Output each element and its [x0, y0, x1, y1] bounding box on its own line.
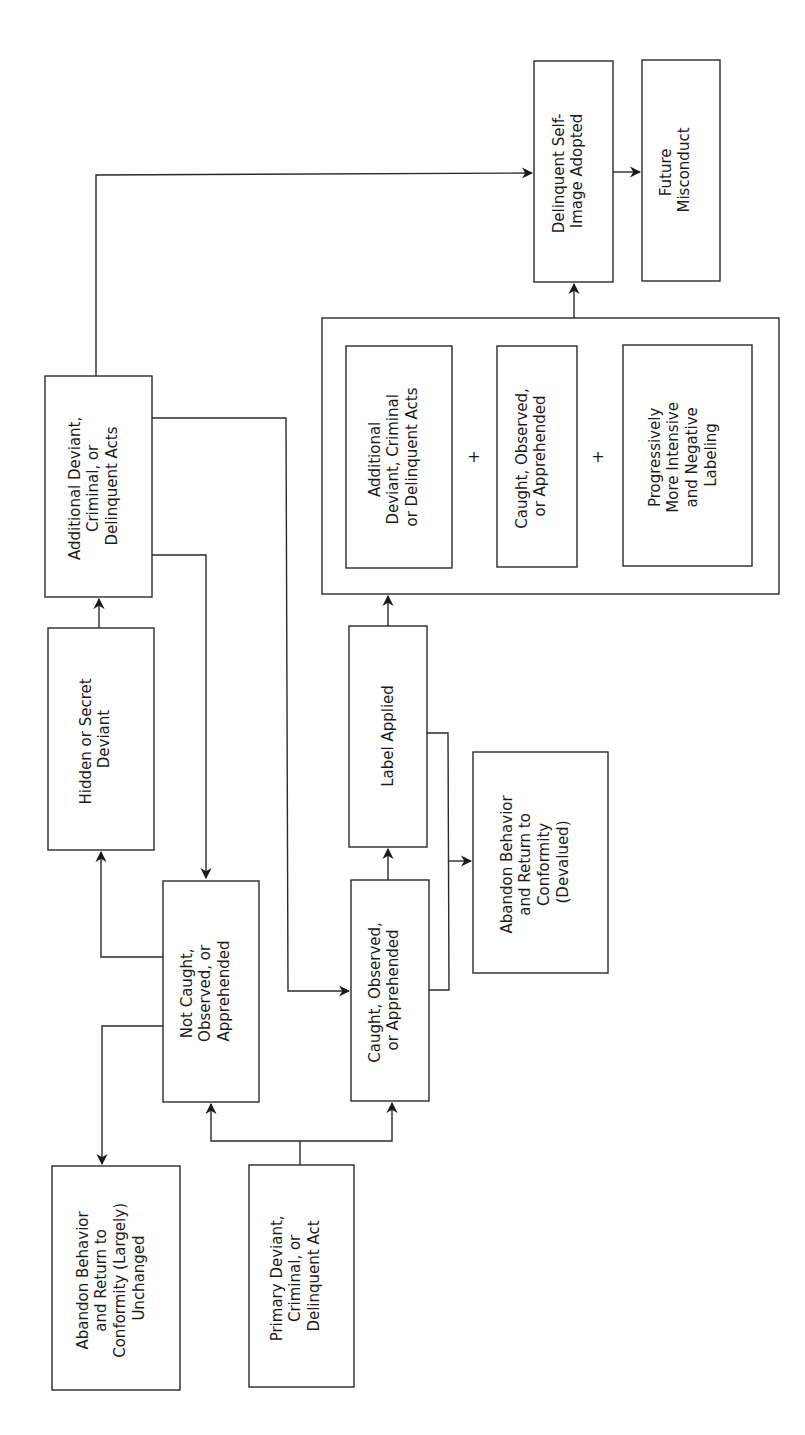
plus-sign-1: +	[467, 447, 480, 466]
node-abandon-unchanged: Abandon Behavior and Return to Conformit…	[52, 1166, 180, 1390]
edge-additional-not-caught	[152, 555, 206, 878]
node-caught: Caught, Observed, or Apprehended	[351, 880, 429, 1101]
edge-not-caught-abandon	[102, 1026, 163, 1164]
edge-not-caught-hidden	[101, 852, 163, 957]
node-hidden: Hidden or Secret Deviant	[48, 628, 154, 850]
svg-text:Caught, Observed, or App: Caught, Observed, or Apprehended	[513, 383, 550, 528]
node-primary: Primary Deviant, Criminal, or Delinquent…	[249, 1165, 354, 1387]
svg-text:Not Caught, Observed, or: Not Caught, Observed, or Apprehended	[178, 940, 234, 1042]
node-group-additional: Additional Deviant, Criminal or Delinque…	[346, 346, 452, 568]
node-future: Future Misconduct	[642, 60, 720, 281]
edge-primary-caught	[300, 1103, 392, 1141]
node-group-caught: Caught, Observed, or Apprehended	[497, 346, 577, 567]
node-abandon-devalued: Abandon Behavior and Return to Conformit…	[473, 752, 608, 973]
svg-text:Delinquent Self- Image A: Delinquent Self- Image Adopted	[550, 109, 587, 234]
node-group-labeling: Progressively More Intensive and Negativ…	[623, 345, 752, 566]
svg-text:Primary Deviant, Crimina: Primary Deviant, Criminal, or Delinquent…	[268, 1211, 324, 1342]
node-not-caught: Not Caught, Observed, or Apprehended	[163, 881, 259, 1102]
edge-label-caught-bracket	[427, 733, 449, 990]
node-additional: Additional Deviant, Criminal, or Delinqu…	[45, 376, 152, 597]
svg-text:Caught, Observed, or App: Caught, Observed, or Apprehended	[366, 917, 403, 1062]
labeling-flowchart: Abandon Behavior and Return to Conformit…	[0, 0, 805, 1435]
edge-primary-not-caught	[211, 1104, 300, 1141]
node-self-image: Delinquent Self- Image Adopted	[534, 61, 613, 282]
svg-text:Label Applied: Label Applied	[379, 685, 397, 787]
node-label-applied: Label Applied	[349, 626, 427, 847]
plus-sign-2: +	[591, 447, 604, 466]
